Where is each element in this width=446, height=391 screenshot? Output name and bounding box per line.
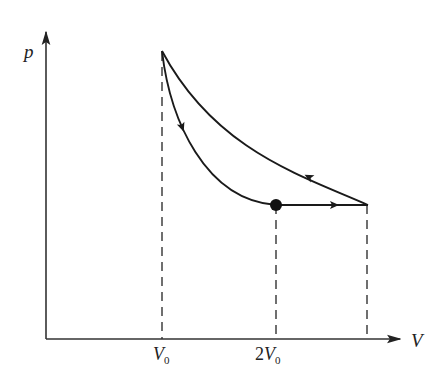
svg-text:V0: V0 [153,344,170,366]
x-axis-label: V [411,330,425,351]
arrow-down-icon [177,122,188,133]
tick-label-v0: V0 [153,344,170,366]
process-right-to-top [162,51,368,205]
process-top-to-dot [162,51,276,205]
svg-text:2V0: 2V0 [255,344,281,366]
state-point-dot [270,199,282,211]
pv-diagram: p V V0 2V0 [0,0,446,391]
axes [46,32,400,339]
tick-label-2v0: 2V0 [255,344,281,366]
cycle [162,51,368,205]
guide-lines [162,52,367,339]
y-axis-label: p [22,41,34,62]
direction-arrows [177,122,339,209]
